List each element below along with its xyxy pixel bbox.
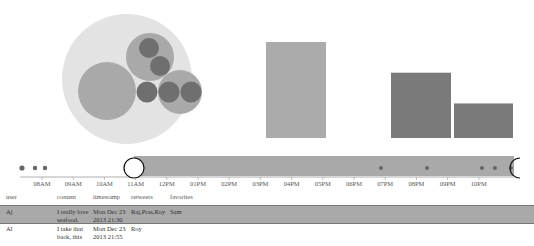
table-row[interactable]: Al I take thatback, this Mon Dec 232013 … — [0, 224, 534, 241]
bar[interactable] — [454, 103, 513, 138]
axis-tick-label: 10AM — [96, 180, 113, 187]
axis-tick-label: 05PM — [315, 180, 331, 187]
axis-tick-label: 10PM — [471, 180, 487, 187]
cell-content: I really loveseafood. — [57, 208, 88, 223]
pack-group-large-circle[interactable] — [78, 62, 136, 120]
cell-user: Al — [6, 225, 13, 233]
timeline: 08AM09AM10AM11AM12PM01PM02PM03PM04PM05PM… — [19, 156, 520, 187]
cell-timestamp: Mon Dec 232013 21:55 — [93, 225, 126, 240]
event-dot[interactable] — [19, 165, 24, 170]
event-dot[interactable] — [425, 166, 429, 170]
timestamp-line: Mon Dec 23 — [93, 208, 126, 215]
axis-tick-label: 02PM — [221, 180, 237, 187]
pack-leaf-circle[interactable] — [159, 82, 180, 103]
header-timestamp[interactable]: timestamp — [93, 193, 120, 200]
axis-tick-label: 09AM — [65, 180, 82, 187]
timestamp-line: 2013 21:30 — [93, 216, 122, 223]
axis-tick-label: 08PM — [408, 180, 424, 187]
axis-tick-label: 12PM — [159, 180, 175, 187]
pack-group-single-circle[interactable] — [137, 82, 158, 103]
brush-handle-left[interactable] — [124, 158, 144, 178]
event-dot[interactable] — [493, 166, 497, 170]
header-content[interactable]: content — [57, 193, 76, 200]
bar-chart — [266, 42, 513, 138]
header-user[interactable]: user — [6, 193, 17, 200]
content-line: I take that — [57, 225, 83, 232]
axis-tick-label: 01PM — [190, 180, 206, 187]
content-line: I really love — [57, 208, 88, 215]
axis-tick-label: 04PM — [284, 180, 300, 187]
cell-user: Aj — [6, 208, 13, 216]
bar[interactable] — [391, 73, 451, 138]
header-retweets[interactable]: retweets — [131, 193, 153, 200]
timestamp-line: 2013 21:55 — [93, 233, 122, 240]
cell-timestamp: Mon Dec 232013 21:30 — [93, 208, 126, 223]
axis-tick-label: 06PM — [346, 180, 362, 187]
content-line: back, this — [57, 233, 82, 240]
cell-retweets: Roy — [131, 225, 142, 233]
axis-tick-label: 09PM — [440, 180, 456, 187]
axis-tick-label: 03PM — [252, 180, 268, 187]
pack-leaf-circle[interactable] — [139, 38, 159, 58]
pack-leaf-circle[interactable] — [150, 56, 170, 76]
event-dot[interactable] — [33, 166, 37, 170]
pack-leaf-circle[interactable] — [181, 82, 202, 103]
content-line: seafood. — [57, 216, 79, 223]
event-dot[interactable] — [379, 166, 383, 170]
visualization-canvas: 08AM09AM10AM11AM12PM01PM02PM03PM04PM05PM… — [0, 0, 534, 190]
cell-content: I take thatback, this — [57, 225, 83, 240]
cell-retweets: Raj,Pras,Roy — [131, 208, 165, 216]
cell-favorites: Sam — [170, 208, 182, 216]
event-dot[interactable] — [43, 166, 47, 170]
axis-tick-label: 07PM — [377, 180, 393, 187]
timestamp-line: Mon Dec 23 — [93, 225, 126, 232]
timeline-brush-band[interactable] — [134, 156, 514, 176]
header-favorites[interactable]: favorites — [170, 193, 193, 200]
bubble-pack-chart — [62, 14, 202, 144]
axis-tick-label: 11AM — [127, 180, 144, 187]
table-row[interactable]: Aj I really loveseafood. Mon Dec 232013 … — [0, 205, 534, 224]
axis-tick-label: 08AM — [34, 180, 51, 187]
bar[interactable] — [266, 42, 326, 138]
event-dot[interactable] — [480, 166, 484, 170]
